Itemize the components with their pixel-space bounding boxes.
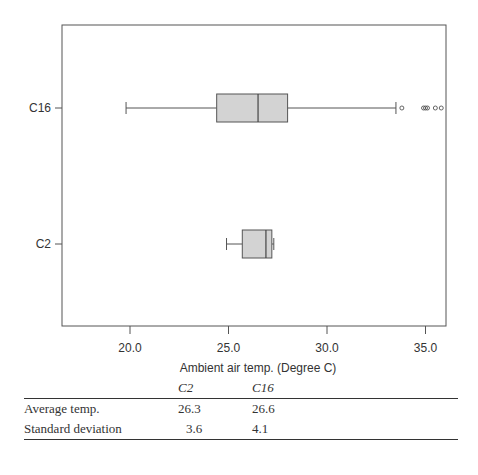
y-axis: C16 C2 [29,101,62,251]
y-label-c2: C2 [36,237,52,251]
outlier-point [433,106,437,110]
x-axis: 20.025.030.035.0 [118,326,437,355]
header-empty [24,378,178,399]
cell-c16: 4.1 [252,419,458,440]
outlier-point [400,106,404,110]
row-label: Average temp. [24,399,178,420]
stats-table: C2 C16 Average temp. 26.3 26.6 Standard … [24,378,458,440]
x-axis-label: Ambient air temp. (Degree C) [180,361,337,375]
x-tick-label: 20.0 [118,341,142,355]
x-tick-label: 25.0 [217,341,241,355]
cell-c2: 3.6 [178,419,252,440]
box-c16 [126,94,443,122]
cell-c16: 26.6 [252,399,458,420]
x-tick-label: 30.0 [315,341,339,355]
cell-c2: 26.3 [178,399,252,420]
table-row: Standard deviation 3.6 4.1 [24,419,458,440]
box-c2 [227,230,274,258]
row-label: Standard deviation [24,419,178,440]
x-tick-label: 35.0 [414,341,438,355]
plot-frame [62,25,446,326]
table-header-row: C2 C16 [24,378,458,399]
outlier-point [439,106,443,110]
header-c2: C2 [178,378,252,399]
boxplot-chart: C16 C2 20.025.030.035.0 Ambient air temp… [0,0,478,375]
table-row: Average temp. 26.3 26.6 [24,399,458,420]
header-c16: C16 [252,378,458,399]
y-label-c16: C16 [29,101,51,115]
boxes [126,94,443,258]
